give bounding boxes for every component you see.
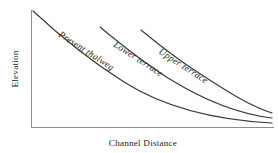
curve-label-present-thalweg: Present thalweg xyxy=(56,29,116,73)
y-axis-label: Elevation xyxy=(10,50,20,87)
chart-figure: Present thalweg Lower terrace Upper terr… xyxy=(0,0,278,153)
curve-label-lower-terrace: Lower terrace xyxy=(111,39,165,79)
x-axis-label: Channel Distance xyxy=(109,138,177,148)
curve-label-upper-terrace: Upper terrace xyxy=(157,46,210,85)
profile-plot: Present thalweg Lower terrace Upper terr… xyxy=(0,0,278,153)
